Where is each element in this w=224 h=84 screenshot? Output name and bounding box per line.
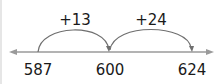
- jump-label-1: +13: [59, 13, 91, 28]
- left-arrow-icon: [9, 49, 17, 55]
- number-line-diagram: +13 +24 587 600 624: [0, 0, 224, 84]
- jump-label-2: +24: [135, 13, 167, 28]
- jump-arc-1: [38, 30, 109, 52]
- tick-label-600: 600: [96, 63, 125, 78]
- tick-label-587: 587: [24, 63, 53, 78]
- jump-arc-2: [110, 30, 191, 51]
- tick-label-624: 624: [178, 63, 207, 78]
- right-arrow-icon: [206, 49, 214, 55]
- jump-arrowhead-2-icon: [189, 46, 194, 52]
